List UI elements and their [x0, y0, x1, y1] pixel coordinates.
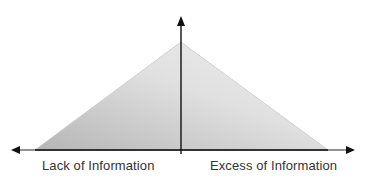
left-arrow-icon [11, 146, 20, 154]
right-arrow-icon [346, 146, 355, 154]
lack-of-information-label: Lack of Information [42, 158, 154, 173]
excess-of-information-label: Excess of Information [210, 158, 337, 173]
information-diagram [0, 0, 369, 179]
up-arrow-icon [177, 16, 185, 26]
